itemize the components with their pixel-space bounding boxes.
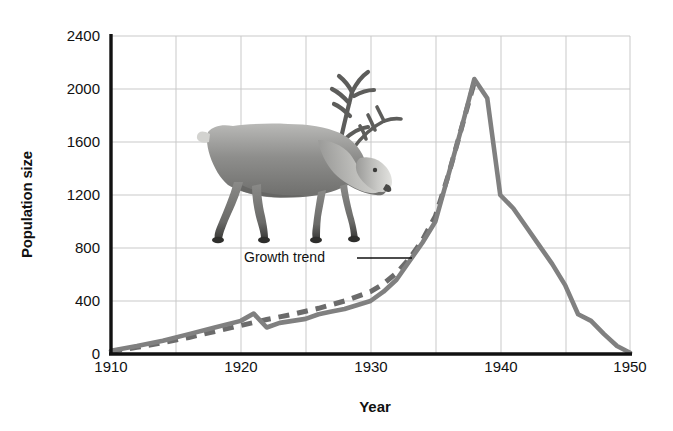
- y-tick-800: 800: [40, 239, 100, 256]
- x-tick-1930: 1930: [336, 358, 406, 375]
- y-axis-title: Population size: [18, 135, 35, 275]
- x-axis-title: Year: [300, 398, 450, 415]
- x-tick-1910: 1910: [76, 358, 146, 375]
- y-tick-2000: 2000: [40, 80, 100, 97]
- x-tick-1920: 1920: [206, 358, 276, 375]
- x-tick-1940: 1940: [466, 358, 536, 375]
- y-tick-1600: 1600: [40, 133, 100, 150]
- reindeer-eye: [373, 168, 377, 172]
- y-tick-2400: 2400: [40, 27, 100, 44]
- growth-trend-annotation: Growth trend: [244, 249, 325, 265]
- y-tick-400: 400: [40, 292, 100, 309]
- chart-figure: 2400 2000 1600 1200 800 400 0 1910 1920 …: [0, 0, 673, 431]
- y-tick-1200: 1200: [40, 186, 100, 203]
- x-tick-1950: 1950: [595, 358, 665, 375]
